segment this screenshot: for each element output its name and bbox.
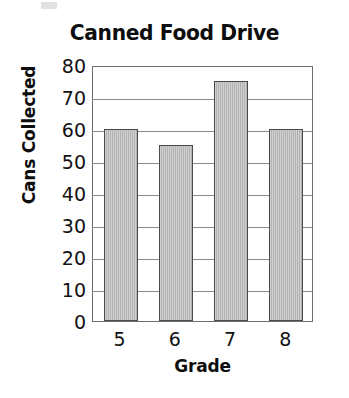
bar-chart-figure: Canned Food Drive Cans Collected 8070605… [0,0,349,398]
y-tick-label: 20 [46,247,86,269]
y-tick-label: 80 [46,55,86,77]
chart-title: Canned Food Drive [14,20,335,45]
bar [214,81,248,321]
x-tick-label: 8 [268,328,302,350]
y-tick-label: 30 [46,215,86,237]
y-tick-label: 60 [46,119,86,141]
bars-group [93,67,312,321]
scan-artifact [41,2,57,9]
x-tick-label: 7 [213,328,247,350]
bar [159,145,193,321]
x-tick-label: 6 [158,328,192,350]
x-axis-title: Grade [92,356,313,376]
bar [269,129,303,321]
y-tick-label: 50 [46,151,86,173]
bar [104,129,138,321]
y-tick-label: 70 [46,87,86,109]
x-tick-label: 5 [103,328,137,350]
y-axis-title: Cans Collected [19,60,39,210]
y-tick-label: 10 [46,279,86,301]
y-axis-tick-labels: 80706050403020100 [44,66,86,322]
plot-area [92,66,313,322]
x-axis-tick-labels: 5678 [92,328,313,354]
y-tick-label: 0 [46,311,86,333]
y-tick-label: 40 [46,183,86,205]
